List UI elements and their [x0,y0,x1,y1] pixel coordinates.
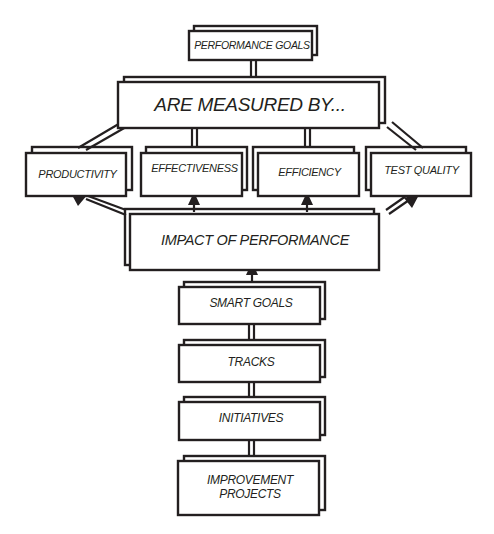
node-productivity: PRODUCTIVITY [26,153,129,196]
node-impact-of-performance: IMPACT OF PERFORMANCE [130,212,380,268]
node-performance-goals: PERFORMANCE GOALS [189,31,315,60]
node-efficiency: EFFICIENCY [258,151,361,194]
node-tracks: TRACKS [179,344,323,381]
node-test-quality: TEST QUALITY [370,149,473,192]
node-effectiveness: EFFECTIVENESS [143,147,246,190]
node-initiatives: INITIATIVES [179,400,323,438]
node-improvement-projects: IMPROVEMENT PROJECTS [178,461,322,515]
node-are-measured-by: ARE MEASURED BY... [118,82,382,128]
node-smart-goals: SMART GOALS [179,285,323,322]
